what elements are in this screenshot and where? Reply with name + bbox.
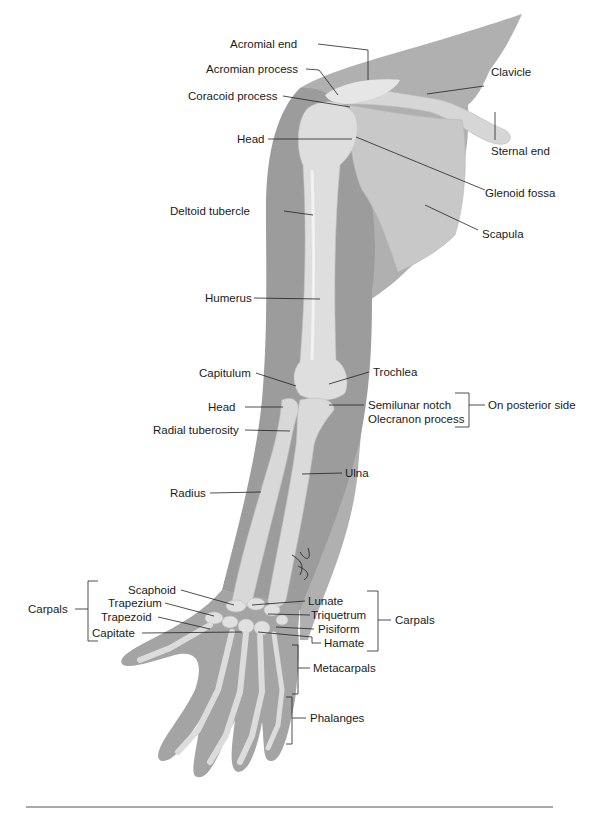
label-scaphoid: Scaphoid bbox=[128, 584, 176, 597]
label-radial-tuberosity: Radial tuberosity bbox=[153, 424, 239, 437]
label-lunate: Lunate bbox=[308, 595, 343, 608]
label-triquetrum: Triquetrum bbox=[311, 609, 366, 622]
label-capitulum: Capitulum bbox=[199, 367, 251, 380]
label-trapezium: Trapezium bbox=[108, 597, 162, 610]
label-acromial-end: Acromial end bbox=[230, 38, 297, 51]
label-coracoid-process: Coracoid process bbox=[188, 90, 277, 103]
label-deltoid-tubercle: Deltoid tubercle bbox=[170, 205, 250, 218]
label-scapula: Scapula bbox=[482, 228, 524, 241]
label-glenoid-fossa: Glenoid fossa bbox=[485, 187, 555, 200]
upper-limb-skeleton-diagram: Acromial end Acromian process Coracoid p… bbox=[0, 0, 609, 819]
label-sternal-end: Sternal end bbox=[491, 145, 550, 158]
label-metacarpals: Metacarpals bbox=[313, 662, 376, 675]
label-head-humerus: Head bbox=[237, 133, 265, 146]
label-capitate: Capitate bbox=[92, 627, 135, 640]
label-olecranon-process: Olecranon process bbox=[368, 413, 465, 426]
label-trapezoid: Trapezoid bbox=[101, 611, 152, 624]
label-head-radius: Head bbox=[208, 401, 236, 414]
label-trochlea: Trochlea bbox=[373, 366, 417, 379]
label-on-posterior-side: On posterior side bbox=[488, 399, 576, 412]
label-humerus: Humerus bbox=[205, 292, 252, 305]
label-hamate: Hamate bbox=[324, 637, 364, 650]
label-pisiform: Pisiform bbox=[318, 623, 360, 636]
label-semilunar-notch: Semilunar notch bbox=[368, 399, 451, 412]
label-phalanges: Phalanges bbox=[310, 712, 364, 725]
label-acromian-process: Acromian process bbox=[206, 63, 298, 76]
label-ulna: Ulna bbox=[345, 467, 369, 480]
label-radius: Radius bbox=[170, 487, 206, 500]
label-carpals-left: Carpals bbox=[28, 603, 68, 616]
humerus-highlight bbox=[312, 170, 314, 360]
label-carpals-right: Carpals bbox=[395, 614, 435, 627]
label-clavicle: Clavicle bbox=[491, 66, 531, 79]
